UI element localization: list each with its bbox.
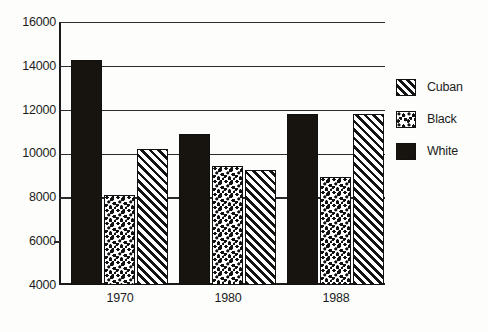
legend-item-cuban: Cuban: [396, 76, 486, 98]
bar-group-1970: [71, 22, 169, 285]
bar-1980-cuban: [245, 170, 276, 285]
y-axis: 16000 14000 12000 10000 8000 6000 4000: [0, 0, 56, 332]
y-tick-label-14000: 14000: [2, 60, 56, 73]
bar-1980-black: [212, 166, 243, 285]
bar-group-1980: [179, 22, 277, 285]
y-tick-label-6000: 6000: [2, 235, 56, 248]
x-tick-label-1980: 1980: [179, 292, 277, 305]
bar-1980-white: [179, 134, 210, 285]
x-tick-label-1970: 1970: [71, 292, 169, 305]
y-tick-label-10000: 10000: [2, 147, 56, 160]
bar-1988-cuban: [353, 114, 384, 285]
bar-group-1988: [287, 22, 385, 285]
legend-item-black: Black: [396, 108, 486, 130]
bars-layer: [61, 22, 385, 285]
legend-label-cuban: Cuban: [427, 81, 463, 94]
legend-label-black: Black: [427, 113, 457, 126]
y-tickmark-6000: [54, 241, 60, 242]
y-tick-label-8000: 8000: [2, 191, 56, 204]
legend-label-white: White: [427, 145, 458, 158]
plot-area: [59, 22, 385, 285]
bar-1970-cuban: [137, 149, 168, 285]
x-tick-label-1988: 1988: [287, 292, 385, 305]
diagonal-hatch-swatch-icon: [396, 79, 416, 96]
bar-chart: 16000 14000 12000 10000 8000 6000 4000: [0, 0, 488, 332]
chart-legend: Cuban Black White: [396, 76, 486, 172]
solid-black-swatch-icon: [396, 143, 416, 160]
y-tick-label-16000: 16000: [2, 16, 56, 29]
bar-1970-white: [71, 60, 102, 285]
bar-1970-black: [104, 195, 135, 285]
x-axis: 1970 1980 1988: [59, 292, 385, 314]
bar-1988-white: [287, 114, 318, 285]
y-tick-label-12000: 12000: [2, 104, 56, 117]
speckle-swatch-icon: [396, 111, 416, 128]
y-tick-label-4000: 4000: [2, 279, 56, 292]
legend-item-white: White: [396, 140, 486, 162]
bar-1988-black: [320, 177, 351, 286]
